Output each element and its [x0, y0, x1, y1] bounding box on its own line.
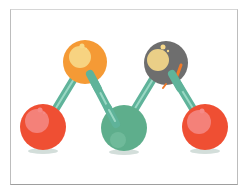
red-atom-left — [20, 104, 66, 150]
green-atom — [101, 105, 147, 151]
orange-atom — [63, 40, 107, 84]
red-atom-right — [182, 104, 228, 150]
molecule-illustration — [0, 0, 248, 195]
